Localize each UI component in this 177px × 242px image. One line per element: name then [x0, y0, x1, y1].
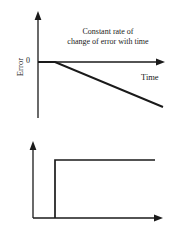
controller-output-vs-time-chart: Controller output Time: [0, 121, 177, 242]
annotation-line-1: Constant rate of: [53, 27, 163, 37]
controller-output-plot: [0, 121, 177, 242]
error-ramp-trace: [38, 62, 163, 107]
error-y-axis: [35, 11, 42, 118]
controller-step-trace: [55, 160, 155, 218]
output-x-axis: [33, 215, 163, 222]
error-zero-tick-label: 0: [26, 56, 30, 65]
annotation-line-2: change of error with time: [53, 37, 163, 47]
constant-rate-annotation: Constant rate of change of error with ti…: [53, 27, 163, 47]
top-chart-x-axis-label: Time: [141, 72, 159, 82]
error-vs-time-chart: Error 0 Time Constant rate of change of …: [0, 0, 177, 121]
derivative-action-figure: Error 0 Time Constant rate of change of …: [0, 0, 177, 242]
output-y-axis: [30, 141, 37, 218]
error-y-axis-label: Error: [15, 45, 25, 89]
